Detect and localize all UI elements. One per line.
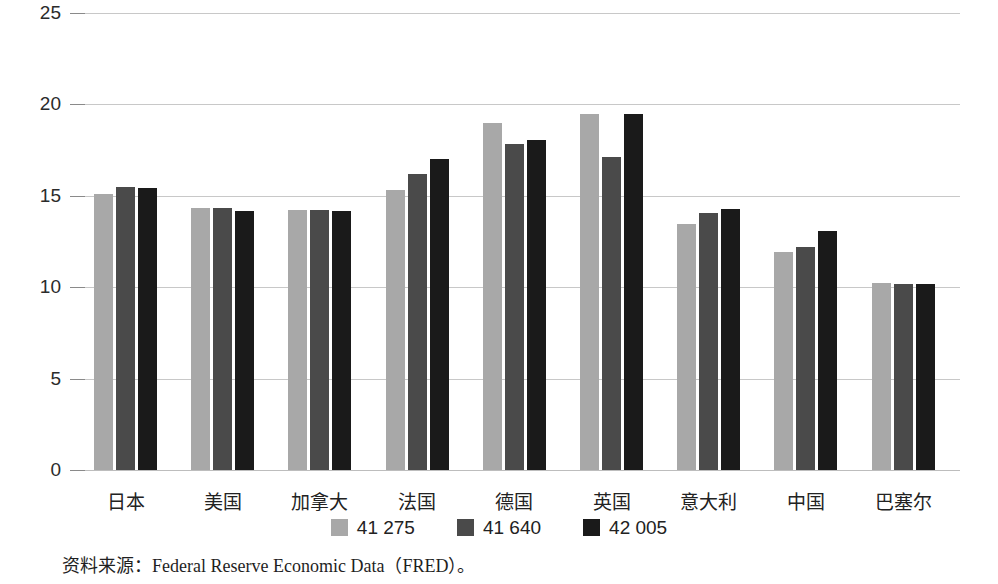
y-tick-mark xyxy=(70,287,85,288)
legend-label: 42 005 xyxy=(609,518,667,537)
x-axis-category-label: 英国 xyxy=(560,493,663,512)
bar xyxy=(483,123,502,470)
bar xyxy=(94,194,113,470)
legend-entry: 42 005 xyxy=(583,518,667,537)
legend-label: 41 275 xyxy=(357,518,415,537)
bar xyxy=(310,210,329,470)
chart-legend: 41 27541 64042 005 xyxy=(0,518,998,537)
x-axis-category-label: 德国 xyxy=(463,493,566,512)
bar xyxy=(916,284,935,470)
y-tick-mark xyxy=(70,379,85,380)
legend-swatch-icon xyxy=(583,519,600,536)
bar xyxy=(527,140,546,470)
bar xyxy=(699,213,718,470)
legend-entry: 41 640 xyxy=(457,518,541,537)
bar-chart-figure: 0510152025日本美国加拿大法国德国英国意大利中国巴塞尔 41 27541… xyxy=(0,0,998,584)
legend-swatch-icon xyxy=(331,519,348,536)
x-axis-category-label: 巴塞尔 xyxy=(852,493,955,512)
legend-label: 41 640 xyxy=(483,518,541,537)
bar xyxy=(235,211,254,470)
bar xyxy=(602,157,621,470)
bar-group xyxy=(872,13,935,470)
bar xyxy=(796,247,815,470)
y-tick-mark xyxy=(70,196,85,197)
bar-group xyxy=(580,13,643,470)
x-axis-category-label: 中国 xyxy=(754,493,857,512)
bar xyxy=(624,114,643,470)
bar-group xyxy=(774,13,837,470)
y-tick-mark xyxy=(70,13,85,14)
bar xyxy=(580,114,599,470)
bar-group xyxy=(94,13,157,470)
bar xyxy=(677,224,696,470)
bar xyxy=(894,284,913,470)
bar xyxy=(774,252,793,470)
plot-area: 0510152025日本美国加拿大法国德国英国意大利中国巴塞尔 xyxy=(85,13,960,470)
y-axis-tick-label: 20 xyxy=(15,94,61,113)
bar xyxy=(430,159,449,470)
bar xyxy=(116,187,135,470)
bar xyxy=(386,190,405,470)
bar-group xyxy=(483,13,546,470)
bar xyxy=(288,210,307,470)
y-axis-tick-label: 10 xyxy=(15,277,61,296)
x-axis-category-label: 意大利 xyxy=(657,493,760,512)
bar xyxy=(721,209,740,470)
gridline xyxy=(85,470,960,471)
bar-group xyxy=(386,13,449,470)
bar-group xyxy=(288,13,351,470)
x-axis-category-label: 美国 xyxy=(171,493,274,512)
bar xyxy=(818,231,837,470)
bar xyxy=(872,283,891,470)
y-axis-tick-label: 0 xyxy=(15,460,61,479)
bar xyxy=(408,174,427,470)
bar xyxy=(191,208,210,470)
y-tick-mark xyxy=(70,470,85,471)
bar xyxy=(505,144,524,470)
x-axis-category-label: 法国 xyxy=(366,493,469,512)
legend-swatch-icon xyxy=(457,519,474,536)
y-axis-tick-label: 5 xyxy=(15,369,61,388)
y-tick-mark xyxy=(70,104,85,105)
bar-group xyxy=(191,13,254,470)
x-axis-category-label: 日本 xyxy=(74,493,177,512)
bar xyxy=(213,208,232,470)
x-axis-category-label: 加拿大 xyxy=(268,493,371,512)
y-axis-tick-label: 15 xyxy=(15,186,61,205)
legend-entry: 41 275 xyxy=(331,518,415,537)
bar xyxy=(332,211,351,470)
source-note: 资料来源：Federal Reserve Economic Data（FRED）… xyxy=(62,551,475,577)
bar-group xyxy=(677,13,740,470)
bar xyxy=(138,188,157,470)
y-axis-tick-label: 25 xyxy=(15,3,61,22)
